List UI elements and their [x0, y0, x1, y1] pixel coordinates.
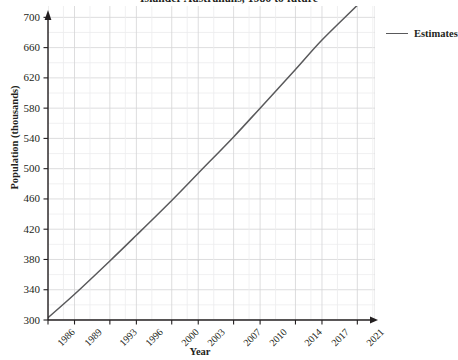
legend-label-estimates: Estimates [414, 28, 458, 39]
chart-figure: Islander Australians, 1986 to future Pop… [0, 0, 458, 360]
legend-swatch-estimates [386, 33, 408, 34]
axis-lines [0, 0, 458, 360]
legend: Estimates [386, 28, 458, 39]
